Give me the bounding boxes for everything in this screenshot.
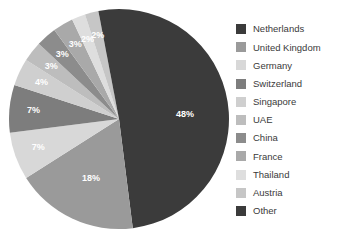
legend-color-swatch-icon xyxy=(236,133,246,143)
legend-item-label: Netherlands xyxy=(253,24,304,34)
legend-color-swatch-icon xyxy=(236,115,246,125)
pie-slice-value-label: 7% xyxy=(32,142,45,152)
chart-legend: NetherlandsUnited KingdomGermanySwitzerl… xyxy=(236,20,344,220)
legend-item-label: France xyxy=(253,152,283,162)
legend-color-swatch-icon xyxy=(236,206,246,216)
legend-item-label: United Kingdom xyxy=(253,43,321,53)
legend-item[interactable]: Singapore xyxy=(236,93,344,111)
legend-item[interactable]: Other xyxy=(236,202,344,220)
legend-color-swatch-icon xyxy=(236,170,246,180)
pie-slice-value-label: 4% xyxy=(35,77,48,87)
legend-item[interactable]: UAE xyxy=(236,111,344,129)
pie-svg: 48%18%7%7%4%3%3%3%2%2% xyxy=(8,8,230,230)
legend-item-label: China xyxy=(253,133,278,143)
legend-item-label: Switzerland xyxy=(253,79,302,89)
pie-slice-group xyxy=(9,9,229,229)
legend-item[interactable]: China xyxy=(236,129,344,147)
pie-chart-figure: 48%18%7%7%4%3%3%3%2%2% NetherlandsUnited… xyxy=(0,0,348,238)
legend-item[interactable]: Austria xyxy=(236,184,344,202)
legend-item[interactable]: France xyxy=(236,147,344,165)
legend-color-swatch-icon xyxy=(236,188,246,198)
pie-slice-value-label: 48% xyxy=(176,109,194,119)
legend-item-label: Germany xyxy=(253,61,292,71)
legend-color-swatch-icon xyxy=(236,60,246,70)
legend-color-swatch-icon xyxy=(236,151,246,161)
legend-item-label: Other xyxy=(253,206,277,216)
legend-item-label: Austria xyxy=(253,188,283,198)
pie-slice-value-label: 3% xyxy=(69,39,82,49)
legend-item[interactable]: Germany xyxy=(236,56,344,74)
legend-item[interactable]: Thailand xyxy=(236,166,344,184)
legend-item-label: Thailand xyxy=(253,170,289,180)
pie-plot-area: 48%18%7%7%4%3%3%3%2%2% xyxy=(8,8,230,230)
pie-slice[interactable] xyxy=(119,9,229,228)
pie-slice-value-label: 3% xyxy=(56,49,69,59)
legend-color-swatch-icon xyxy=(236,42,246,52)
pie-slice-value-label: 18% xyxy=(82,173,100,183)
legend-color-swatch-icon xyxy=(236,97,246,107)
pie-slice-value-label: 2% xyxy=(91,30,104,40)
legend-item-label: Singapore xyxy=(253,97,296,107)
pie-slice-value-label: 7% xyxy=(27,105,40,115)
legend-color-swatch-icon xyxy=(236,24,246,34)
legend-item[interactable]: Netherlands xyxy=(236,20,344,38)
legend-item[interactable]: Switzerland xyxy=(236,75,344,93)
legend-item[interactable]: United Kingdom xyxy=(236,38,344,56)
pie-slice-value-label: 3% xyxy=(45,61,58,71)
legend-color-swatch-icon xyxy=(236,79,246,89)
legend-item-label: UAE xyxy=(253,115,273,125)
